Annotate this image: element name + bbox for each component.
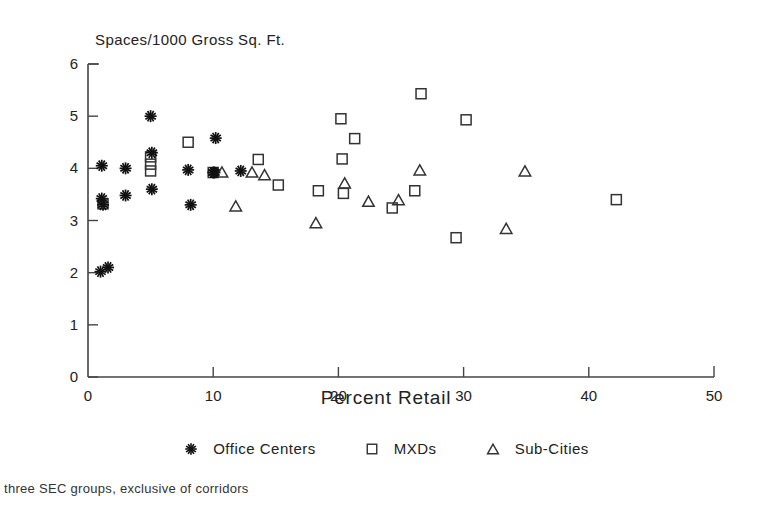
square-marker [451, 233, 461, 243]
legend-entry[interactable]: Office Centers [183, 440, 316, 457]
y-tick-label: 0 [56, 368, 78, 385]
square-marker [146, 159, 156, 169]
legend-label: Office Centers [213, 440, 316, 457]
asterisk-marker [120, 189, 132, 201]
triangle-marker [230, 201, 242, 211]
asterisk-marker [210, 132, 222, 144]
square-marker [611, 195, 621, 205]
y-tick-label: 6 [56, 55, 78, 72]
triangle-marker [363, 196, 375, 206]
square-marker [336, 114, 346, 124]
legend: Office CentersMXDsSub-Cities [0, 440, 772, 457]
footnote: three SEC groups, exclusive of corridors [4, 481, 249, 496]
legend-entry[interactable]: Sub-Cities [485, 440, 589, 457]
triangle-marker [500, 223, 512, 233]
asterisk-marker [145, 110, 157, 122]
triangle-marker [485, 441, 501, 457]
x-axis-title-text: Percent Retail [321, 387, 452, 409]
y-tick-label: 3 [56, 212, 78, 229]
x-ticks-group [213, 367, 589, 377]
y-tick-label: 4 [56, 159, 78, 176]
plot-canvas [0, 0, 772, 513]
y-tick-label: 5 [56, 107, 78, 124]
triangle-marker [259, 170, 271, 180]
triangle-marker [310, 218, 322, 228]
triangle-marker [339, 178, 351, 188]
square-marker [253, 154, 263, 164]
legend-label: MXDs [394, 440, 437, 457]
triangle-marker [414, 165, 426, 175]
square-marker [338, 188, 348, 198]
asterisk-marker [146, 183, 158, 195]
asterisk-marker [185, 199, 197, 211]
asterisk-marker [185, 443, 196, 454]
square-marker [416, 89, 426, 99]
square-marker [313, 186, 323, 196]
asterisk-marker [120, 162, 132, 174]
square-marker [461, 115, 471, 125]
square-marker [410, 186, 420, 196]
x-axis-title: Percent Retail [0, 387, 772, 409]
legend-label: Sub-Cities [515, 440, 589, 457]
asterisk-marker [182, 164, 194, 176]
triangle-marker [487, 444, 498, 454]
square-marker [146, 166, 156, 176]
y-axis-title: Spaces/1000 Gross Sq. Ft. [95, 31, 285, 48]
triangle-marker [246, 167, 258, 177]
y-ticks-group [88, 64, 98, 377]
triangle-marker [393, 195, 405, 205]
y-tick-label: 2 [56, 264, 78, 281]
asterisk-marker [183, 441, 199, 457]
square-marker [273, 180, 283, 190]
asterisk-marker [235, 165, 247, 177]
legend-entry[interactable]: MXDs [364, 440, 437, 457]
square-marker [350, 134, 360, 144]
square-marker [367, 444, 377, 454]
axes-group [88, 64, 714, 377]
square-marker [183, 137, 193, 147]
square-marker [364, 441, 380, 457]
asterisk-marker [96, 160, 108, 172]
scatter-plot-figure: Spaces/1000 Gross Sq. Ft. 0123456 010203… [0, 0, 772, 513]
triangle-marker [519, 166, 531, 176]
y-tick-label: 1 [56, 316, 78, 333]
data-points-group [95, 89, 622, 278]
square-marker [337, 154, 347, 164]
